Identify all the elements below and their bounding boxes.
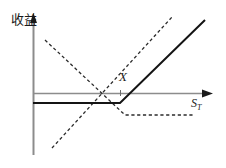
covered-position-payoff-line [33, 20, 205, 103]
y-axis [30, 13, 37, 155]
y-axis-title: 收益 [11, 13, 29, 27]
strike-price-label: X [119, 70, 127, 83]
x-axis [33, 90, 213, 98]
long-underlying-payoff-line [52, 17, 172, 148]
x-axis-title: ST [191, 97, 201, 112]
payoff-diagram-figure: 收益 ST X [0, 0, 226, 168]
x-axis-arrow-icon [202, 90, 213, 98]
x-axis-subscript: T [197, 103, 201, 112]
